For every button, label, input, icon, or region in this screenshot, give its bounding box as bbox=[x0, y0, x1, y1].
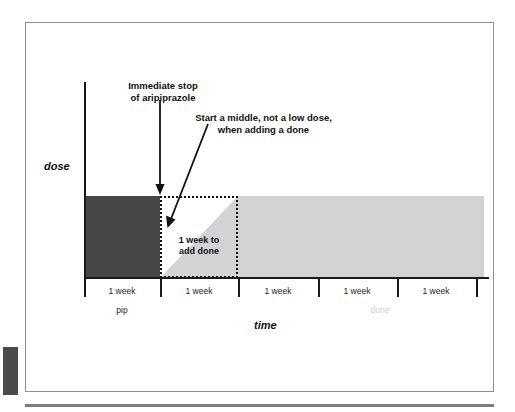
y-axis-line bbox=[84, 82, 86, 279]
titration-window-label-line1: 1 week to bbox=[160, 235, 238, 246]
pip-dose-band bbox=[85, 196, 160, 278]
stop-annotation: Immediate stop of aripiprazole bbox=[98, 80, 228, 103]
done-dose-band bbox=[238, 196, 484, 278]
titration-window-label-line2: add done bbox=[160, 246, 238, 257]
x-tick-label: 1 week bbox=[159, 286, 239, 297]
start-dose-annotation-line1: Start a middle, not a low dose, bbox=[176, 112, 351, 124]
start-dose-arrow bbox=[160, 120, 216, 232]
stop-annotation-line2: of aripiprazole bbox=[98, 92, 228, 104]
stop-annotation-line1: Immediate stop bbox=[98, 80, 228, 92]
dose-timeline-chart: dose time Immediate stop of aripiprazole… bbox=[0, 0, 515, 412]
x-tick-label: 1 week bbox=[396, 286, 476, 297]
start-dose-annotation: Start a middle, not a low dose, when add… bbox=[176, 112, 351, 135]
x-axis-tick bbox=[476, 279, 478, 297]
x-axis-line bbox=[84, 277, 489, 279]
y-axis-title: dose bbox=[44, 161, 70, 172]
figure-page: dose time Immediate stop of aripiprazole… bbox=[0, 0, 515, 412]
x-tick-label: 1 week bbox=[238, 286, 318, 297]
x-axis-title: time bbox=[254, 320, 277, 331]
x-tick-label: 1 week bbox=[317, 286, 397, 297]
start-dose-annotation-line2: when adding a done bbox=[176, 124, 351, 136]
series-label-pip: pip bbox=[82, 305, 162, 316]
series-label-done: done bbox=[340, 305, 420, 316]
x-tick-label: 1 week bbox=[82, 286, 162, 297]
titration-window-label: 1 week to add done bbox=[160, 235, 238, 257]
